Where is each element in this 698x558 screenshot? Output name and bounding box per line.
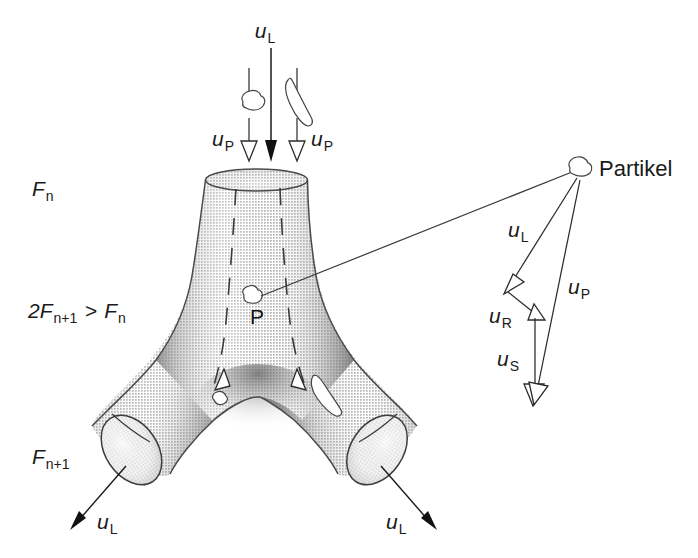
- point-P-label: P: [250, 305, 264, 328]
- bifurcation-diagram: uL uP uP Fn 2Fn+1 > Fn Fn+1 P uL uL Part…: [0, 0, 698, 558]
- figure-root: uL uP uP Fn 2Fn+1 > Fn Fn+1 P uL uL Part…: [0, 0, 698, 558]
- partikel-label: Partikel: [599, 156, 672, 181]
